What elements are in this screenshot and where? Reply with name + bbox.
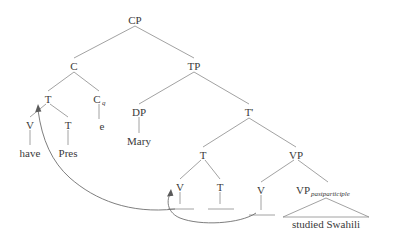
node-t-fourth: T <box>217 181 224 193</box>
node-labels: CP C TP T C q DP T' V T e Mary have Pres… <box>20 14 360 230</box>
node-v-lower: V <box>257 184 265 196</box>
node-cq: C <box>93 93 100 105</box>
branch-vp-vppp <box>298 160 328 182</box>
phrase-triangle <box>283 198 369 217</box>
leaf-have: have <box>20 147 41 159</box>
movement-arrowhead-v-to-v <box>167 189 173 197</box>
branch-cp-c <box>74 26 135 58</box>
branch-vp-v3 <box>261 160 294 182</box>
leaf-studied-swahili: studied Swahili <box>292 218 360 230</box>
node-vp-subscript: pastparticiple <box>310 190 350 198</box>
movement-arrow-v-to-t <box>38 110 175 210</box>
node-cp: CP <box>128 14 141 26</box>
branch-tp-dp <box>139 72 194 104</box>
node-t-upper: T <box>45 93 52 105</box>
node-dp: DP <box>132 106 146 118</box>
node-c: C <box>70 60 77 72</box>
leaf-mary: Mary <box>127 135 151 147</box>
node-tp: TP <box>188 60 201 72</box>
branch-t3-v2 <box>180 160 201 179</box>
syntax-tree-diagram: CP C TP T C q DP T' V T e Mary have Pres… <box>0 0 397 232</box>
node-t-third: T <box>200 149 207 161</box>
branch-t-t2 <box>50 104 68 117</box>
node-t-second: T <box>65 119 72 131</box>
branch-tbar-vp <box>249 118 296 147</box>
branch-cp-tp <box>135 26 194 58</box>
node-cq-subscript: q <box>102 99 106 107</box>
node-t-bar: T' <box>245 106 254 118</box>
leaf-e: e <box>100 120 105 132</box>
node-vp-pastparticiple: VP <box>296 184 310 196</box>
node-v-upper: V <box>26 119 34 131</box>
triangle-studied-swahili <box>283 198 369 217</box>
branch-c-t <box>48 72 74 91</box>
trace-marks <box>168 209 275 215</box>
leaf-pres: Pres <box>59 147 78 159</box>
movement-arrow-v-to-v <box>168 194 256 223</box>
node-vp: VP <box>289 149 303 161</box>
branch-tbar-t <box>203 118 249 147</box>
branch-tp-tbar <box>194 72 249 104</box>
branch-t3-t4 <box>205 160 220 179</box>
branch-c-cq <box>74 72 99 91</box>
node-v-mid: V <box>176 181 184 193</box>
